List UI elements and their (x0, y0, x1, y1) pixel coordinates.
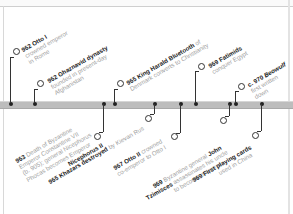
event-circle-icon (238, 83, 245, 90)
event-stem (180, 104, 181, 133)
event-hook (34, 89, 38, 90)
event-stem (235, 91, 236, 103)
event-label: 962 Ghaznavid dynasty founded in present… (46, 44, 116, 97)
event-circle-icon (171, 133, 178, 140)
event-stem (195, 71, 196, 103)
event-stem (114, 89, 115, 103)
event-hook (235, 91, 239, 92)
event-circle-icon (117, 80, 124, 87)
event-hook (195, 71, 199, 72)
event-circle-icon (37, 80, 44, 87)
event-label: 962 Otto I crowned emperor in Rome (20, 23, 73, 66)
event-stem (261, 104, 262, 131)
event-circle-icon (252, 132, 259, 139)
frame-left-border (3, 6, 4, 214)
event-hook (114, 89, 118, 90)
event-circle-icon (145, 115, 152, 122)
event-stem (229, 104, 230, 116)
event-stem (103, 104, 104, 132)
event-hook (10, 57, 14, 58)
event-label: c. 970 Beowulf first written down (246, 61, 293, 101)
event-stem (154, 104, 155, 114)
event-stem (34, 89, 35, 103)
event-title-suffix: by Kievan Rus (105, 124, 145, 151)
event-circle-icon (220, 117, 227, 124)
event-circle-icon (198, 63, 205, 70)
timeline-bar (0, 101, 293, 109)
event-label: 969 Fatimids conquer Egypt (207, 43, 249, 75)
event-stem (10, 57, 11, 103)
event-circle-icon (13, 48, 20, 55)
event-label: 965 King Harald Bluetooth of Denmark con… (125, 35, 210, 92)
frame-top-border (0, 0, 293, 7)
